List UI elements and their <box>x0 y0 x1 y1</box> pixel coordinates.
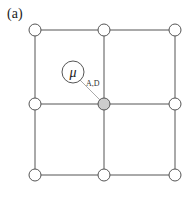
mu-symbol: μ <box>68 65 76 80</box>
lattice-diagram: μ A,D <box>0 0 190 197</box>
edge-label: A,D <box>86 79 100 88</box>
lattice-nodes <box>29 24 181 181</box>
highlighted-node <box>98 98 110 110</box>
